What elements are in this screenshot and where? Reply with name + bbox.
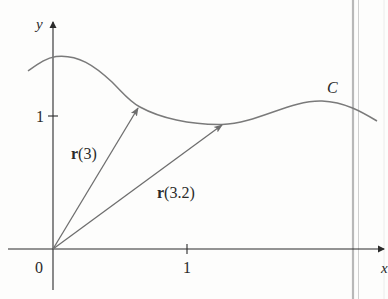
vector-label-r3-arg: (3) [78,145,97,163]
vector-label-r3-2-arg: (3.2) [164,184,195,202]
curve-label: C [327,79,338,96]
vector-function-diagram: y x 0 1 1 C r(3) r(3.2) [0,0,388,299]
vector-label-r3-bold: r [71,145,78,162]
y-axis-label: y [34,16,43,32]
origin-label: 0 [35,259,43,276]
page-edge-lines [353,0,384,299]
vector-label-r3-2-bold: r [157,184,164,201]
curve-c [28,56,377,124]
y-tick-label: 1 [36,108,44,125]
x-axis-label: x [380,260,388,276]
vector-r3 [53,108,138,249]
vector-r3-2 [53,125,222,249]
vector-label-r3: r(3) [71,145,97,163]
x-tick-label: 1 [183,259,191,276]
vector-label-r3-2: r(3.2) [157,184,195,202]
